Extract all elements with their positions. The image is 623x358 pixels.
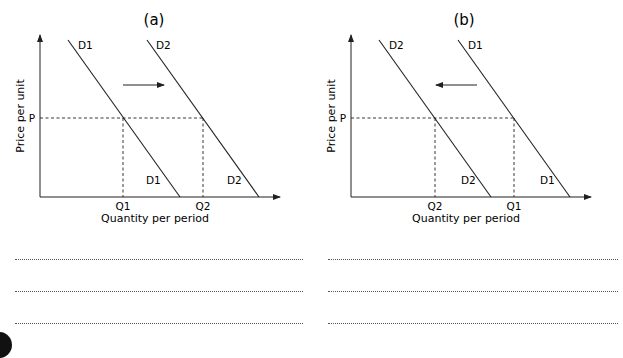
- answer-line-right-3[interactable]: [328, 323, 618, 324]
- chart-b-x-label: Quantity per period: [412, 212, 520, 225]
- chart-b-price-label: P: [340, 112, 346, 124]
- chart-b-d1-top-label: D1: [468, 39, 483, 51]
- chart-a-title: (a): [144, 11, 165, 29]
- chart-a-q-left-label: Q1: [116, 200, 131, 212]
- chart-b-d1-bottom-label: D1: [540, 174, 555, 186]
- chart-a-d1-top-label: D1: [78, 39, 93, 51]
- chart-a-d2-top-label: D2: [156, 39, 171, 51]
- chart-b: (b) Price per unit Quantity per period P…: [325, 11, 591, 225]
- answer-line-left-2[interactable]: [15, 291, 303, 292]
- answer-line-left-1[interactable]: [15, 259, 303, 260]
- chart-b-y-label: Price per unit: [325, 79, 338, 153]
- chart-b-q-left-label: Q2: [428, 200, 443, 212]
- answer-line-left-3[interactable]: [15, 323, 303, 324]
- answer-line-right-2[interactable]: [328, 291, 618, 292]
- chart-a: (a) Price per unit Quantity per period P…: [14, 11, 280, 225]
- chart-b-d2-top-label: D2: [389, 39, 404, 51]
- chart-a-d1-bottom-label: D1: [146, 174, 161, 186]
- chart-b-title: (b): [453, 11, 474, 29]
- chart-a-y-label: Price per unit: [14, 79, 27, 153]
- chart-a-d2-bottom-label: D2: [227, 174, 242, 186]
- answer-line-right-1[interactable]: [328, 259, 618, 260]
- chart-a-x-label: Quantity per period: [101, 212, 209, 225]
- chart-b-d2-bottom-label: D2: [461, 174, 476, 186]
- chart-a-price-label: P: [29, 112, 35, 124]
- chart-b-q-right-label: Q1: [507, 200, 522, 212]
- chart-a-q-right-label: Q2: [196, 200, 211, 212]
